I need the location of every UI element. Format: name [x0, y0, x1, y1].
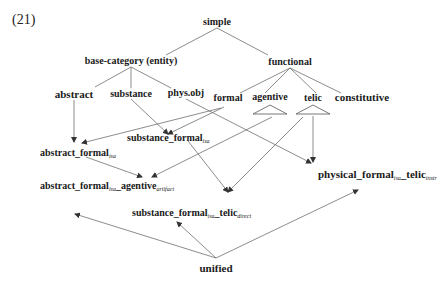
edge-functional-telic — [290, 68, 316, 93]
node-abstract: abstract — [55, 88, 94, 100]
node-functional: functional — [268, 56, 312, 67]
node-formal: formal — [214, 92, 243, 103]
node-substance: substance — [110, 88, 152, 99]
node-telic: telic — [304, 92, 322, 103]
arrow-unified-to-physical-combined — [216, 190, 358, 258]
node-constitutive: constitutive — [335, 91, 390, 103]
arrow-agentive-to-combined — [152, 117, 272, 177]
node-unified: unified — [199, 262, 232, 274]
node-agentive: agentive — [252, 91, 288, 102]
edge-simple-functional — [217, 28, 268, 55]
edge-base-physobj — [131, 67, 171, 88]
arrow-substance-to-substance-formal — [131, 99, 168, 134]
node-phys-obj: phys.obj — [168, 87, 204, 98]
node-abstract-formal-agentive: abstract_formalisa_agentiveartifact — [40, 180, 174, 192]
telic-subtree-triangle — [296, 105, 330, 114]
arrow-physobj-to-physical — [186, 99, 311, 163]
example-number: (21) — [12, 12, 36, 28]
type-hierarchy-diagram: (21) simple base-category (entity) funct… — [0, 0, 441, 283]
edge-simple-base — [166, 28, 217, 55]
node-simple: simple — [203, 16, 231, 27]
inheritance-arrows — [74, 99, 358, 258]
node-abstract-formal-isa: abstract_formalisa — [40, 147, 116, 159]
arrow-telic-to-telic-direct — [228, 117, 303, 192]
arrow-unified-to-substance-combined — [177, 222, 216, 258]
arrow-unified-to-abstract-combined — [75, 214, 216, 258]
arrow-formal-to-substance-formal — [168, 107, 224, 134]
node-substance-formal-isa: substance_formalisa — [127, 132, 210, 144]
edge-base-abstract — [95, 67, 131, 87]
edge-functional-constitutive — [290, 68, 341, 93]
node-base-category: base-category (entity) — [85, 55, 177, 67]
arrow-abstract-formal-to-combined — [86, 157, 142, 177]
edge-functional-agentive — [265, 68, 290, 93]
node-substance-formal-telic: substance_formalisa_telicdirect — [132, 207, 251, 219]
node-physical-formal-telic: physical_formalisa_telicinstr — [318, 168, 438, 181]
agentive-subtree-triangle — [253, 105, 287, 114]
edge-functional-formal — [240, 68, 290, 93]
